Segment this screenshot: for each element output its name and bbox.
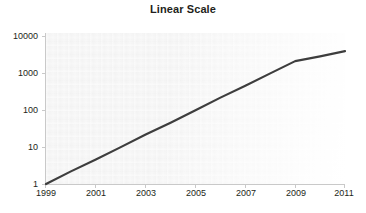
y-tick-label: 100 — [4, 106, 38, 115]
y-tick-label: 10 — [4, 143, 38, 152]
x-tick-label-2009: 2009 — [274, 188, 318, 198]
y-tick-100: 100 — [0, 106, 38, 115]
y-tick-label: 1000 — [4, 69, 38, 78]
chart-figure: Linear Scale 10000 10 — [0, 0, 366, 213]
y-tick-marks — [42, 37, 46, 185]
y-tick-10000: 10000 — [0, 32, 38, 41]
x-tick-label-2003: 2003 — [124, 188, 168, 198]
plot-svg — [0, 0, 366, 213]
data-line-growth — [46, 51, 345, 184]
y-tick-10: 10 — [0, 143, 38, 152]
x-tick-label-2011: 2011 — [322, 188, 366, 198]
y-tick-1000: 1000 — [0, 69, 38, 78]
x-tick-label-2007: 2007 — [224, 188, 268, 198]
x-tick-label-1999: 1999 — [24, 188, 68, 198]
y-tick-label: 10000 — [4, 32, 38, 41]
x-tick-label-2001: 2001 — [74, 188, 118, 198]
x-tick-label-2005: 2005 — [174, 188, 218, 198]
